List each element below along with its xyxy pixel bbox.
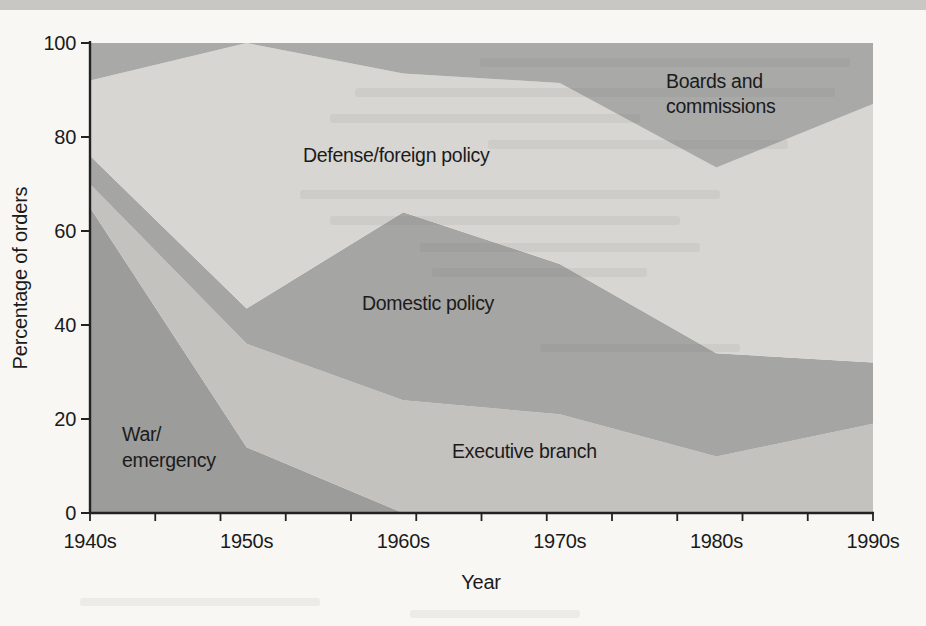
bleed-through-line [410,610,580,618]
y-tick-label: 100 [44,32,77,54]
x-tick-label-1950s: 1950s [220,530,273,552]
x-tick-label-1980s: 1980s [690,530,743,552]
y-tick-label: 0 [65,502,76,524]
bleed-through-line [420,243,700,252]
label-executive-branch: Executive branch [452,440,597,462]
label-boards-and-commissions: commissions [666,95,776,117]
scanned-book-figure: 0204060801001940s1950s1960s1970s1980s199… [0,0,926,626]
stacked-area-chart: 0204060801001940s1950s1960s1970s1980s199… [0,0,926,626]
x-tick-label-1990s: 1990s [847,530,900,552]
label-domestic-policy: Domestic policy [362,292,495,314]
y-tick-label: 60 [54,220,76,242]
x-tick-label-1960s: 1960s [377,530,430,552]
bleed-through-line [330,216,680,225]
bleed-through-line [540,344,740,352]
label-boards-and-commissions: Boards and [666,70,763,92]
y-tick-label: 40 [54,314,76,336]
label-defense-foreign-policy: Defense/foreign policy [303,144,490,166]
y-axis-title: Percentage of orders [9,186,31,369]
bleed-through-line [80,598,320,606]
x-tick-label-1940s: 1940s [64,530,117,552]
y-tick-label: 80 [54,126,76,148]
bleed-through-line [300,190,720,199]
x-axis-title: Year [461,571,501,593]
bleed-through-line [432,268,647,277]
bleed-through-line [330,114,640,123]
page-top-scan-strip [0,0,926,10]
x-tick-label-1970s: 1970s [533,530,586,552]
bleed-through-line [480,58,850,67]
label-war-emergency: War/ [122,423,162,445]
label-war-emergency: emergency [122,449,216,471]
bleed-through-line [488,140,788,149]
y-tick-label: 20 [54,408,76,430]
